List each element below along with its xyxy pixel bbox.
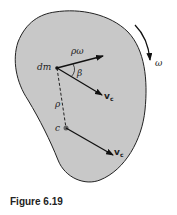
rigid-body-diagram: dm ρω β ρ c vc vc ω (0, 0, 177, 215)
label-dm: dm (37, 62, 51, 72)
figure-caption: Figure 6.19 (10, 196, 63, 207)
label-c: c (55, 123, 60, 133)
dm-point (55, 66, 59, 70)
label-omega: ω (155, 58, 163, 68)
label-rho: ρ (54, 99, 61, 109)
label-beta: β (76, 68, 82, 78)
label-rho-omega: ρω (70, 46, 84, 56)
rigid-body-shape (15, 11, 146, 182)
